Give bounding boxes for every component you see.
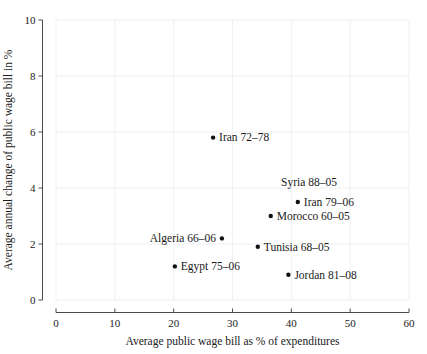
data-point-dot — [269, 214, 273, 218]
x-tick-label: 10 — [109, 317, 121, 329]
data-point-label: Morocco 60–05 — [277, 210, 350, 222]
data-point-label: Syria 88–05 — [281, 176, 337, 189]
y-tick-label: 0 — [30, 294, 36, 306]
y-tick-label: 8 — [30, 70, 36, 82]
x-tick-label: 0 — [53, 317, 59, 329]
x-tick-label: 20 — [168, 317, 180, 329]
data-point-label: Algeria 66–06 — [150, 232, 216, 245]
data-point-dot — [256, 245, 260, 249]
data-point-dot — [173, 264, 177, 268]
data-point-label: Iran 79–06 — [304, 196, 354, 208]
data-point-dot — [211, 135, 215, 139]
x-tick-label: 50 — [345, 317, 357, 329]
x-tick-label: 40 — [286, 317, 298, 329]
data-point-dot — [286, 273, 290, 277]
data-point-label: Iran 72–78 — [219, 131, 269, 143]
x-tick-label: 60 — [404, 317, 416, 329]
data-point-dot — [296, 200, 300, 204]
y-tick-label: 10 — [25, 14, 37, 26]
y-tick-label: 2 — [30, 238, 36, 250]
x-axis-title: Average public wage bill as % of expendi… — [125, 335, 340, 348]
x-tick-label: 30 — [227, 317, 239, 329]
data-point-label: Egypt 75–06 — [181, 260, 240, 273]
scatter-plot-figure: 02468100102030405060Average public wage … — [0, 0, 427, 354]
data-point-dot — [220, 236, 224, 240]
y-axis-title: Average annual change of public wage bil… — [2, 49, 15, 270]
scatter-plot-canvas: 02468100102030405060Average public wage … — [0, 0, 427, 354]
y-tick-label: 4 — [30, 182, 36, 194]
data-point-label: Jordan 81–08 — [294, 269, 357, 281]
y-tick-label: 6 — [30, 126, 36, 138]
data-point-label: Tunisia 68–05 — [264, 241, 330, 253]
